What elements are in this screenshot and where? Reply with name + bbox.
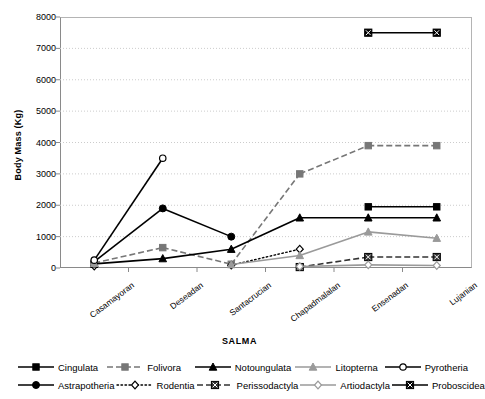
marker-boxed-x xyxy=(433,253,440,260)
marker-open-diamond xyxy=(433,262,440,270)
series-line-segment xyxy=(300,146,369,174)
legend-item-folivora[interactable]: Folivora xyxy=(105,360,193,374)
legend-symbol-litopterna xyxy=(293,360,333,374)
marker-boxed-x xyxy=(365,253,372,260)
series-rodentia xyxy=(91,245,304,270)
legend-symbol-astrapotheria xyxy=(16,378,56,392)
legend-item-label: Pyrotheria xyxy=(423,362,468,373)
legend-item-label: Artiodactyla xyxy=(338,380,390,391)
legend-item-litopterna[interactable]: Litopterna xyxy=(293,360,382,374)
marker-open-circle xyxy=(399,364,405,370)
x-axis-title: SALMA xyxy=(0,336,479,346)
legend-row: CingulataFolivoraNotoungulataLitopternaP… xyxy=(16,358,468,376)
series-line-segment xyxy=(368,232,437,238)
legend-symbol-proboscidea xyxy=(390,378,430,392)
marker-filled-square xyxy=(365,142,371,148)
legend-item-label: Litopterna xyxy=(333,362,377,373)
series-proboscidea xyxy=(365,29,441,36)
legend-item-label: Perissodactyla xyxy=(235,380,299,391)
legend-item-label: Rodentia xyxy=(155,380,195,391)
marker-filled-square xyxy=(122,364,128,370)
legend-item-label: Cingulata xyxy=(56,362,98,373)
legend-item-artiodactyla[interactable]: Artiodactyla xyxy=(298,378,390,392)
marker-boxed-x xyxy=(406,381,413,388)
marker-filled-square xyxy=(365,204,371,210)
marker-filled-square xyxy=(434,204,440,210)
legend-symbol-cingulata xyxy=(16,360,56,374)
series-pyrotheria xyxy=(91,155,166,263)
legend-item-perissodactyla[interactable]: Perissodactyla xyxy=(195,378,299,392)
legend-item-notoungulata[interactable]: Notoungulata xyxy=(193,360,294,374)
marker-open-circle xyxy=(160,155,166,161)
series-artiodactyla xyxy=(296,261,440,270)
legend-item-label: Folivora xyxy=(145,362,181,373)
series-line-segment xyxy=(94,208,163,261)
marker-filled-square xyxy=(434,142,440,148)
marker-open-circle xyxy=(91,257,97,263)
marker-filled-square xyxy=(33,364,39,370)
series-line-segment xyxy=(368,265,437,266)
legend-item-label: Astrapotheria xyxy=(56,380,115,391)
legend-item-pyrotheria[interactable]: Pyrotheria xyxy=(383,360,468,374)
legend-symbol-rodentia xyxy=(115,378,155,392)
series-line-segment xyxy=(163,208,232,236)
legend-symbol-artiodactyla xyxy=(298,378,338,392)
legend-symbol-notoungulata xyxy=(193,360,233,374)
legend-row: AstrapotheriaRodentiaPerissodactylaArtio… xyxy=(16,376,468,394)
marker-boxed-x xyxy=(211,381,218,388)
series-line-segment xyxy=(300,232,369,256)
legend-symbol-folivora xyxy=(105,360,145,374)
chart-legend: CingulataFolivoraNotoungulataLitopternaP… xyxy=(16,358,468,394)
legend-symbol-pyrotheria xyxy=(383,360,423,374)
marker-filled-square xyxy=(297,171,303,177)
series-notoungulata xyxy=(90,214,440,267)
series-line-segment xyxy=(231,255,300,264)
marker-open-diamond xyxy=(315,381,322,389)
series-cingulata xyxy=(91,204,440,268)
marker-filled-circle xyxy=(159,205,166,212)
marker-boxed-x xyxy=(365,29,372,36)
legend-item-label: Notoungulata xyxy=(233,362,292,373)
series-line-segment xyxy=(94,158,163,260)
legend-symbol-perissodactyla xyxy=(195,378,235,392)
marker-filled-circle xyxy=(33,382,40,389)
legend-item-proboscidea[interactable]: Proboscidea xyxy=(390,378,485,392)
marker-open-diamond xyxy=(365,261,372,269)
marker-open-diamond xyxy=(131,381,138,389)
marker-boxed-x xyxy=(433,29,440,36)
marker-filled-square xyxy=(160,244,166,250)
legend-item-astrapotheria[interactable]: Astrapotheria xyxy=(16,378,115,392)
legend-item-label: Proboscidea xyxy=(430,380,485,391)
series-line-segment xyxy=(231,174,300,264)
legend-item-cingulata[interactable]: Cingulata xyxy=(16,360,105,374)
series-line-segment xyxy=(231,218,300,249)
marker-filled-circle xyxy=(228,233,235,240)
legend-item-rodentia[interactable]: Rodentia xyxy=(115,378,195,392)
